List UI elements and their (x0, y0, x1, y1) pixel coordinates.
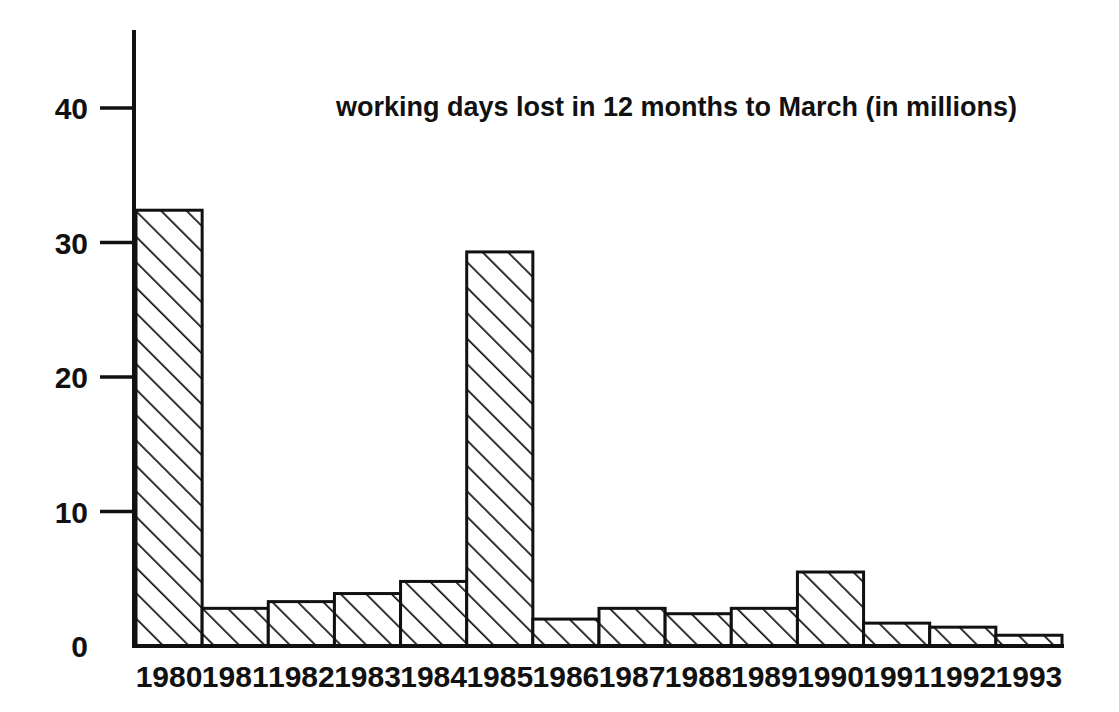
x-tick-label-1989: 1989 (731, 660, 798, 693)
bar-1985 (467, 252, 533, 646)
x-tick-label-1991: 1991 (863, 660, 930, 693)
x-tick-label-1984: 1984 (400, 660, 467, 693)
bar-1992 (930, 627, 996, 646)
bar-1988 (665, 614, 731, 646)
bar-1984 (401, 581, 467, 646)
bar-1989 (731, 608, 797, 646)
x-tick-label-1990: 1990 (797, 660, 864, 693)
chart-title: working days lost in 12 months to March … (335, 92, 1017, 122)
bar-1991 (864, 623, 930, 646)
x-axis-labels: 1980198119821983198419851986198719881989… (136, 660, 1063, 693)
x-tick-label-1988: 1988 (665, 660, 732, 693)
bar-1983 (334, 594, 400, 646)
bar-1980 (136, 210, 202, 646)
bars-group (136, 210, 1062, 646)
y-tick-label-40: 40 (55, 92, 88, 125)
x-tick-label-1987: 1987 (599, 660, 666, 693)
x-tick-label-1981: 1981 (202, 660, 269, 693)
x-tick-label-1983: 1983 (334, 660, 401, 693)
bar-1982 (268, 602, 334, 646)
axis-group (134, 32, 1062, 646)
x-tick-label-1993: 1993 (996, 660, 1063, 693)
bar-chart: 010203040 198019811982198319841985198619… (0, 0, 1119, 712)
x-tick-label-1980: 1980 (136, 660, 203, 693)
x-tick-label-1986: 1986 (533, 660, 600, 693)
x-tick-label-1985: 1985 (466, 660, 533, 693)
y-tick-label-20: 20 (55, 361, 88, 394)
y-axis-ticks: 010203040 (55, 92, 134, 663)
chart-container: 010203040 198019811982198319841985198619… (0, 0, 1119, 712)
x-tick-label-1992: 1992 (929, 660, 996, 693)
bar-1990 (797, 572, 863, 646)
bar-1986 (533, 619, 599, 646)
bar-1981 (202, 608, 268, 646)
y-tick-label-30: 30 (55, 227, 88, 260)
y-tick-label-0: 0 (71, 630, 88, 663)
bar-1987 (599, 608, 665, 646)
x-tick-label-1982: 1982 (268, 660, 335, 693)
y-tick-label-10: 10 (55, 496, 88, 529)
